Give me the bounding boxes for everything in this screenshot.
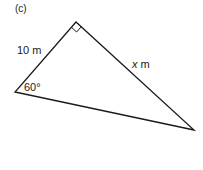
unknown-side-label: x m [132,59,150,70]
triangle-diagram: (c) 10 m 60° x m [0,0,203,170]
angle-label: 60° [24,82,41,93]
unknown-side-variable: x [132,58,138,70]
triangle-shape [15,22,194,130]
panel-label: (c) [15,3,27,14]
right-angle-marker [71,27,81,32]
unknown-side-unit: m [141,58,150,70]
side-length-label: 10 m [17,45,41,56]
side-length-unit: m [32,44,41,56]
side-length-value: 10 [17,44,29,56]
